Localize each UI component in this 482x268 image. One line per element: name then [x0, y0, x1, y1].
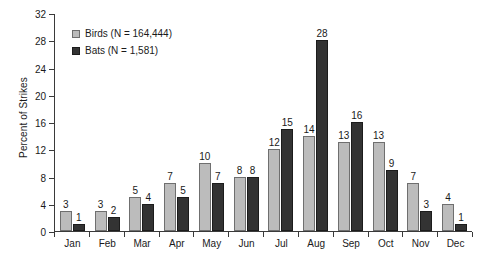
x-tick-mark — [402, 232, 403, 237]
x-tick-mark — [159, 232, 160, 237]
bar-bats-mar: 4 — [142, 204, 154, 231]
bar-value-label: 5 — [133, 186, 139, 196]
bar-group: 41 — [437, 14, 472, 231]
bar-bats-jun: 8 — [247, 177, 259, 232]
bar-value-label: 9 — [389, 159, 395, 169]
y-tick-mark — [49, 150, 54, 151]
bar-value-label: 12 — [269, 138, 280, 148]
x-axis-label-dec: Dec — [438, 238, 473, 249]
legend-swatch-bats-icon — [72, 47, 80, 55]
x-axis-label-sep: Sep — [334, 238, 369, 249]
x-tick-mark — [263, 232, 264, 237]
bar-group: 1428 — [298, 14, 333, 231]
x-axis-label-apr: Apr — [159, 238, 194, 249]
bar-group: 1316 — [333, 14, 368, 231]
bar-bats-may: 7 — [212, 183, 224, 231]
y-tick-mark — [49, 205, 54, 206]
x-tick-mark — [228, 232, 229, 237]
x-tick-mark — [54, 232, 55, 237]
bar-value-label: 7 — [411, 172, 417, 182]
bar-birds-jul: 12 — [268, 149, 280, 231]
chart-figure: Percent of Strikes 048121620242832 31325… — [0, 0, 482, 268]
bar-bats-oct: 9 — [386, 170, 398, 231]
y-tick-label: 32 — [35, 9, 46, 20]
y-axis-title: Percent of Strikes — [18, 43, 29, 193]
bar-birds-mar: 5 — [129, 197, 141, 231]
bar-value-label: 1 — [458, 213, 464, 223]
bar-bats-jul: 15 — [281, 129, 293, 231]
bar-value-label: 28 — [317, 29, 328, 39]
chart-legend: Birds (N = 164,444) Bats (N = 1,581) — [72, 28, 172, 62]
x-axis-label-mar: Mar — [125, 238, 160, 249]
bar-bats-nov: 3 — [420, 211, 432, 231]
x-axis-label-oct: Oct — [368, 238, 403, 249]
y-tick-label: 28 — [35, 36, 46, 47]
y-tick-mark — [49, 69, 54, 70]
legend-item-bats: Bats (N = 1,581) — [72, 45, 172, 56]
y-tick-label: 8 — [40, 172, 46, 183]
legend-item-birds: Birds (N = 164,444) — [72, 28, 172, 39]
legend-label-bats: Bats (N = 1,581) — [85, 45, 158, 56]
x-axis-label-feb: Feb — [90, 238, 125, 249]
bar-value-label: 8 — [237, 166, 243, 176]
bar-value-label: 10 — [199, 152, 210, 162]
bar-birds-feb: 3 — [95, 211, 107, 231]
x-axis-label-jul: Jul — [264, 238, 299, 249]
legend-swatch-birds-icon — [72, 30, 80, 38]
bar-group: 107 — [194, 14, 229, 231]
bar-value-label: 7 — [167, 172, 173, 182]
bar-value-label: 5 — [180, 186, 186, 196]
bar-value-label: 4 — [445, 193, 451, 203]
bar-value-label: 3 — [63, 200, 69, 210]
bar-bats-apr: 5 — [177, 197, 189, 231]
bar-birds-sep: 13 — [338, 142, 350, 231]
y-tick-label: 0 — [40, 227, 46, 238]
bar-value-label: 14 — [304, 125, 315, 135]
y-tick-label: 16 — [35, 118, 46, 129]
bar-birds-jan: 3 — [60, 211, 72, 231]
bar-bats-feb: 2 — [108, 217, 120, 231]
bar-group: 88 — [229, 14, 264, 231]
bar-value-label: 13 — [338, 131, 349, 141]
x-axis-label-jan: Jan — [55, 238, 90, 249]
x-tick-mark — [124, 232, 125, 237]
y-tick-mark — [49, 96, 54, 97]
bar-value-label: 15 — [282, 118, 293, 128]
x-tick-mark — [368, 232, 369, 237]
y-tick-label: 20 — [35, 90, 46, 101]
x-tick-mark — [89, 232, 90, 237]
y-tick-label: 4 — [40, 199, 46, 210]
bar-group: 139 — [368, 14, 403, 231]
legend-label-birds: Birds (N = 164,444) — [85, 28, 172, 39]
bar-birds-oct: 13 — [373, 142, 385, 231]
y-tick-label: 12 — [35, 145, 46, 156]
bar-bats-sep: 16 — [351, 122, 363, 231]
bar-value-label: 2 — [111, 206, 117, 216]
bar-birds-apr: 7 — [164, 183, 176, 231]
x-tick-mark — [437, 232, 438, 237]
bar-value-label: 3 — [424, 200, 430, 210]
y-tick-mark — [49, 178, 54, 179]
x-tick-mark — [298, 232, 299, 237]
x-tick-mark — [472, 232, 473, 237]
y-tick-label: 24 — [35, 63, 46, 74]
y-tick-mark — [49, 14, 54, 15]
x-axis-label-aug: Aug — [299, 238, 334, 249]
bar-value-label: 3 — [98, 200, 104, 210]
y-tick-mark — [49, 123, 54, 124]
bar-value-label: 7 — [215, 172, 221, 182]
bar-bats-jan: 1 — [73, 224, 85, 231]
bar-group: 1215 — [264, 14, 299, 231]
bar-birds-nov: 7 — [407, 183, 419, 231]
bar-birds-jun: 8 — [234, 177, 246, 232]
x-axis-label-nov: Nov — [403, 238, 438, 249]
bar-value-label: 13 — [373, 131, 384, 141]
bar-birds-aug: 14 — [303, 136, 315, 231]
bar-value-label: 4 — [146, 193, 152, 203]
bar-value-label: 1 — [76, 213, 82, 223]
bar-birds-may: 10 — [199, 163, 211, 231]
bar-bats-dec: 1 — [455, 224, 467, 231]
x-axis-label-may: May — [194, 238, 229, 249]
x-tick-mark — [333, 232, 334, 237]
y-tick-mark — [49, 41, 54, 42]
